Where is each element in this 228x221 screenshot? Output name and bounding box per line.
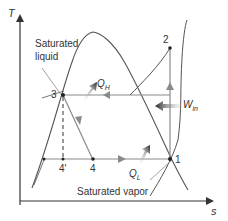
state-point-1 — [168, 157, 172, 161]
dome-extension — [34, 160, 44, 185]
state-point-4prime — [62, 158, 65, 161]
y-axis-label: T — [8, 8, 15, 19]
heat-absorbed-label: QL — [129, 169, 141, 181]
saturated-liquid-label-line1: Saturated — [35, 39, 78, 49]
state-1-label: 1 — [175, 155, 181, 165]
heat-absorption-arrow-icon — [138, 145, 150, 165]
state-3-label: 3 — [51, 90, 57, 100]
work-input-label: Win — [183, 100, 198, 112]
state-point-2 — [168, 46, 172, 50]
state-point-4 — [91, 157, 95, 161]
superheated-segment — [130, 48, 170, 95]
state-point-dome-liquid — [43, 158, 46, 161]
ts-diagram: T s Saturated liquid Saturated vapor 3 2… — [0, 0, 228, 221]
state-4-label: 4 — [90, 164, 96, 174]
state-2-label: 2 — [163, 35, 169, 45]
state-point-3 — [61, 93, 65, 97]
process-3-4 — [63, 95, 93, 160]
heat-rejected-label: QH — [97, 79, 110, 91]
heat-rejection-arrow-icon — [82, 82, 97, 102]
saturated-vapor-label: Saturated vapor — [77, 187, 148, 197]
process-2-3 — [63, 91, 170, 99]
state-4prime-label: 4' — [59, 164, 66, 174]
saturated-liquid-label-line2: liquid — [35, 52, 58, 62]
x-axis-label: s — [211, 206, 217, 217]
